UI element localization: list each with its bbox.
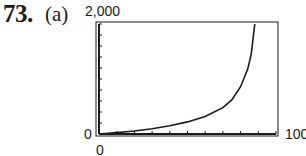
window-frame <box>96 22 278 136</box>
function-curve <box>99 24 255 134</box>
axis-ticks <box>99 24 276 134</box>
graph-window <box>0 0 306 156</box>
